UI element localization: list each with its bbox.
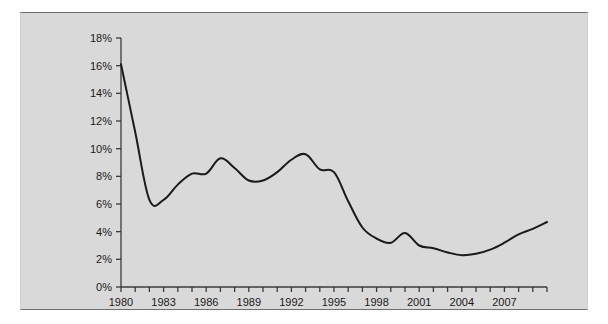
x-axis-tick-label: 1998 — [364, 296, 388, 308]
y-axis-tick-label: 18% — [90, 32, 112, 44]
x-axis-tick-label: 1989 — [237, 296, 261, 308]
x-axis-tick-label: 2004 — [450, 296, 474, 308]
y-axis-tick-label: 0% — [96, 281, 112, 293]
y-axis-tick-label: 4% — [96, 226, 112, 238]
y-axis-tick-label: 16% — [90, 60, 112, 72]
chart-page: 0%2%4%6%8%10%12%14%16%18% 19801983198619… — [0, 0, 608, 324]
y-axis-tick-label: 6% — [96, 198, 112, 210]
y-axis: 0%2%4%6%8%10%12%14%16%18% — [90, 32, 121, 293]
x-axis-tick-label: 1995 — [322, 296, 346, 308]
x-axis-tick-label: 1980 — [109, 296, 133, 308]
x-axis-tick-label: 1992 — [279, 296, 303, 308]
x-axis-tick-label: 2007 — [492, 296, 516, 308]
y-axis-tick-label: 2% — [96, 253, 112, 265]
y-axis-tick-label: 14% — [90, 87, 112, 99]
x-axis-tick-label: 2001 — [407, 296, 431, 308]
data-series-line — [121, 64, 547, 255]
y-axis-tick-label: 10% — [90, 143, 112, 155]
line-chart: 0%2%4%6%8%10%12%14%16%18% 19801983198619… — [21, 13, 589, 311]
x-axis-tick-label: 1986 — [194, 296, 218, 308]
y-axis-tick-label: 8% — [96, 170, 112, 182]
x-axis: 1980198319861989199219951998200120042007 — [109, 287, 547, 308]
x-axis-tick-label: 1983 — [151, 296, 175, 308]
figure-frame: 0%2%4%6%8%10%12%14%16%18% 19801983198619… — [20, 12, 588, 310]
y-axis-tick-label: 12% — [90, 115, 112, 127]
